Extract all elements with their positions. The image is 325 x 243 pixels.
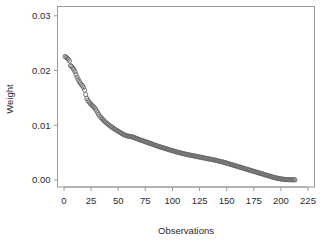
x-tick-label: 100 bbox=[165, 195, 181, 206]
x-tick-label: 200 bbox=[273, 195, 289, 206]
x-tick-label: 125 bbox=[192, 195, 208, 206]
y-tick-label: 0.03 bbox=[32, 10, 51, 21]
x-tick-label: 175 bbox=[246, 195, 262, 206]
y-tick-label: 0.02 bbox=[32, 65, 51, 76]
x-tick-label: 150 bbox=[219, 195, 235, 206]
x-tick-label: 25 bbox=[86, 195, 97, 206]
chart-figure: 0.000.010.020.03 02550751001251501752002… bbox=[0, 0, 325, 243]
x-axis-title: Observations bbox=[158, 225, 214, 236]
y-tick-label: 0.01 bbox=[32, 120, 51, 131]
x-tick-label: 225 bbox=[300, 195, 316, 206]
y-axis-title: Weight bbox=[4, 84, 15, 114]
x-tick-label: 0 bbox=[61, 195, 66, 206]
x-tick-label: 75 bbox=[140, 195, 151, 206]
y-tick-label: 0.00 bbox=[32, 174, 51, 185]
x-tick-label: 50 bbox=[113, 195, 124, 206]
scatter-plot: 0.000.010.020.03 02550751001251501752002… bbox=[0, 0, 325, 243]
